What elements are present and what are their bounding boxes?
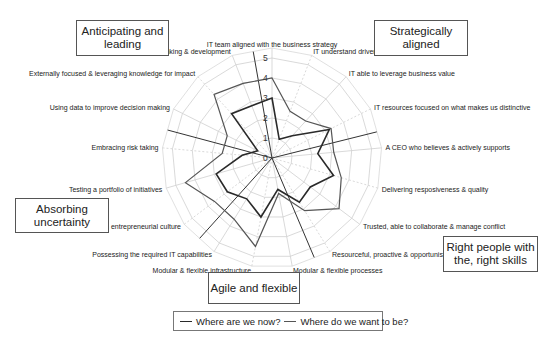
chart-legend: Where are we now? Where do we want to be… — [173, 311, 383, 331]
grid-spoke — [272, 148, 382, 158]
axis-label: Using data to improve decision making — [50, 104, 170, 112]
axis-label: IT resources focused on what makes us di… — [374, 104, 530, 111]
group-box-absorbing: Absorbing uncertainty — [15, 198, 109, 233]
axis-label: Embracing risk taking — [92, 144, 159, 152]
axis-label: Modular & flexible processes — [293, 267, 383, 275]
grid-spoke — [272, 55, 312, 158]
group-box-right-people: Right people with the, right skills — [443, 236, 538, 272]
legend-label-now: Where are we now? — [196, 316, 280, 327]
axis-label: Trusted, able to collaborate & manage co… — [363, 223, 505, 231]
grid-spoke — [272, 158, 292, 266]
group-box-agile: Agile and flexible — [208, 272, 300, 304]
group-label-strategic: Strategically aligned — [375, 25, 467, 51]
section-divider — [272, 158, 314, 257]
group-label-absorbing: Absorbing uncertainty — [16, 203, 108, 229]
group-box-anticipating: Anticipating and leading — [76, 20, 169, 56]
legend-swatch-want — [284, 321, 296, 322]
legend-item-want: Where do we want to be? — [284, 316, 408, 327]
axis-label: Delivering resposiveness & quality — [382, 186, 489, 194]
axis-label: Resourceful, proactive & opportunistic — [332, 251, 450, 259]
axis-label: Possessing the required IT capabilities — [92, 251, 212, 259]
legend-item-now: Where are we now? — [180, 316, 280, 327]
legend-swatch-now — [180, 321, 192, 322]
tick-label: 3 — [263, 93, 268, 103]
group-box-strategic: Strategically aligned — [374, 20, 468, 56]
legend-label-want: Where do we want to be? — [300, 316, 408, 327]
axis-label: A CEO who believes & actively supports — [386, 144, 511, 152]
section-divider — [168, 130, 272, 158]
axis-label: Externally focused & leveraging knowledg… — [29, 70, 195, 78]
axis-label: An entrepreneurial culture — [100, 223, 181, 231]
tick-label: 4 — [263, 73, 268, 83]
section-divider — [272, 132, 377, 158]
axis-label: IT able to leverage business value — [349, 70, 455, 78]
tick-label: 1 — [263, 133, 268, 143]
tick-label: 0 — [263, 153, 268, 163]
tick-label: 2 — [263, 113, 268, 123]
group-label-agile: Agile and flexible — [211, 282, 298, 295]
grid-spoke — [272, 158, 360, 224]
tick-label: 5 — [263, 53, 268, 63]
axis-label: Testing a portfolio of initiatives — [69, 186, 163, 194]
group-label-anticipating: Anticipating and leading — [77, 25, 168, 51]
group-label-right-people: Right people with the, right skills — [444, 241, 537, 267]
